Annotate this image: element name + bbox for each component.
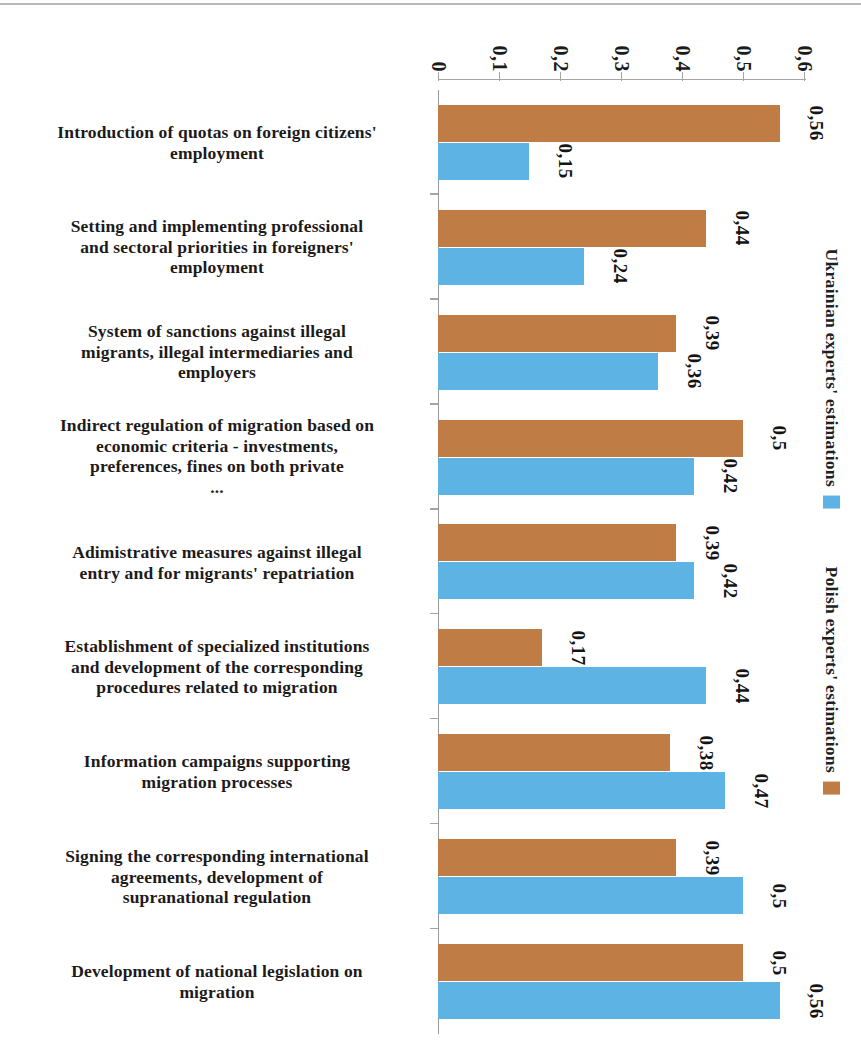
legend-label-polish: Polish experts' estimations bbox=[822, 567, 843, 773]
bar-polish bbox=[438, 839, 676, 876]
value-axis-tick-label: 0,2 bbox=[549, 46, 572, 73]
bar-polish bbox=[438, 210, 706, 247]
bar-value-label: 0,47 bbox=[750, 773, 775, 808]
category-axis-tick bbox=[430, 403, 438, 405]
value-axis-tick bbox=[499, 72, 501, 81]
bar-row: 0,56 bbox=[438, 105, 804, 142]
value-axis-tick-label: 0,3 bbox=[610, 46, 633, 73]
bar-polish bbox=[438, 315, 676, 352]
value-axis-tick bbox=[682, 72, 684, 81]
bar-ukrainian bbox=[438, 563, 694, 600]
value-axis-tick-label: 0,5 bbox=[732, 46, 755, 73]
bar-value-label: 0,44 bbox=[731, 211, 756, 246]
bar-row: 0,36 bbox=[438, 353, 804, 390]
bar-row: 0,5 bbox=[438, 944, 804, 981]
category-axis-labels: Development of national legislation onmi… bbox=[5, 90, 429, 1034]
category-label: Setting and implementing professionaland… bbox=[5, 216, 429, 278]
bar-ukrainian bbox=[438, 353, 658, 390]
bar-polish bbox=[438, 944, 743, 981]
value-axis-tick-labels: 00,10,20,30,40,50,6 bbox=[438, 2, 804, 72]
bar-ukrainian bbox=[438, 248, 584, 285]
bar-ukrainian bbox=[438, 772, 725, 809]
bar-value-label: 0,5 bbox=[768, 950, 793, 975]
rotated-scan-wrapper: Ukrainian experts' estimations Polish ex… bbox=[0, 0, 861, 1048]
category-axis-tick bbox=[430, 718, 438, 720]
category-axis-tick bbox=[430, 193, 438, 195]
legend-entry-ukrainian: Ukrainian experts' estimations bbox=[822, 249, 843, 509]
value-axis-tick-label: 0 bbox=[427, 62, 450, 73]
bar-row: 0,44 bbox=[438, 210, 804, 247]
bar-row: 0,42 bbox=[438, 563, 804, 600]
legend-swatch-polish bbox=[824, 782, 841, 795]
value-axis-tick bbox=[560, 72, 562, 81]
bar-value-label: 0,39 bbox=[701, 316, 726, 351]
category-axis-tick bbox=[430, 823, 438, 825]
category-axis-tick bbox=[430, 508, 438, 510]
value-axis-tick-label: 0,6 bbox=[793, 46, 816, 73]
bar-row: 0,39 bbox=[438, 525, 804, 562]
scan-edge-line bbox=[0, 3, 861, 5]
bar-polish bbox=[438, 105, 780, 142]
bar-row: 0,44 bbox=[438, 667, 804, 704]
chart-legend: Ukrainian experts' estimations Polish ex… bbox=[803, 192, 861, 852]
category-label: System of sanctions against illegalmigra… bbox=[5, 321, 429, 383]
bar-value-label: 0,39 bbox=[701, 840, 726, 875]
bar-value-label: 0,5 bbox=[768, 426, 793, 451]
bar-row: 0,17 bbox=[438, 629, 804, 666]
bar-row: 0,5 bbox=[438, 877, 804, 914]
bar-ukrainian bbox=[438, 667, 706, 704]
bar-row: 0,47 bbox=[438, 772, 804, 809]
value-axis-tick bbox=[743, 72, 745, 81]
bar-value-label: 0,24 bbox=[609, 249, 634, 284]
bar-ukrainian bbox=[438, 877, 743, 914]
bar-value-label: 0,42 bbox=[719, 459, 744, 494]
bar-value-label: 0,38 bbox=[695, 735, 720, 770]
bar-row: 0,39 bbox=[438, 315, 804, 352]
bar-polish bbox=[438, 734, 670, 771]
bar-row: 0,39 bbox=[438, 839, 804, 876]
bar-value-label: 0,44 bbox=[731, 668, 756, 703]
bar-polish bbox=[438, 629, 542, 666]
bar-value-label: 0,5 bbox=[768, 883, 793, 908]
category-label: Adimistrative measures against illegalen… bbox=[5, 541, 429, 582]
bar-value-label: 0,36 bbox=[683, 354, 708, 389]
category-label: Information campaigns supportingmigratio… bbox=[5, 751, 429, 792]
bar-value-label: 0,15 bbox=[555, 144, 580, 179]
category-axis-tick bbox=[430, 613, 438, 615]
bar-value-label: 0,39 bbox=[701, 525, 726, 560]
bar-row: 0,42 bbox=[438, 458, 804, 495]
category-axis-tick bbox=[430, 298, 438, 300]
bar-value-label: 0,17 bbox=[567, 630, 592, 665]
category-label: Signing the corresponding internationala… bbox=[5, 846, 429, 908]
bar-row: 0,24 bbox=[438, 248, 804, 285]
value-axis-tick-label: 0,4 bbox=[671, 46, 694, 73]
category-label: Development of national legislation onmi… bbox=[5, 961, 429, 1002]
bar-polish bbox=[438, 420, 743, 457]
bar-value-label: 0,42 bbox=[719, 563, 744, 598]
grouped-bar-chart: Ukrainian experts' estimations Polish ex… bbox=[0, 0, 861, 1048]
category-label: Establishment of specialized institution… bbox=[5, 636, 429, 698]
value-axis-tick bbox=[804, 72, 806, 81]
bar-ukrainian bbox=[438, 982, 780, 1019]
bar-ukrainian bbox=[438, 458, 694, 495]
legend-entry-polish: Polish experts' estimations bbox=[822, 567, 843, 795]
bar-value-label: 0,56 bbox=[805, 983, 830, 1018]
bar-value-label: 0,56 bbox=[805, 106, 830, 141]
bar-ukrainian bbox=[438, 143, 530, 180]
legend-label-ukrainian: Ukrainian experts' estimations bbox=[822, 249, 843, 487]
category-axis-tick bbox=[430, 928, 438, 930]
bar-row: 0,38 bbox=[438, 734, 804, 771]
bar-row: 0,15 bbox=[438, 143, 804, 180]
bar-row: 0,56 bbox=[438, 982, 804, 1019]
value-axis-tick bbox=[621, 72, 623, 81]
category-label: Indirect regulation of migration based o… bbox=[5, 416, 429, 499]
bar-row: 0,5 bbox=[438, 420, 804, 457]
value-axis-tick-label: 0,1 bbox=[488, 46, 511, 73]
plot-area: 0,560,50,50,390,470,380,440,170,420,390,… bbox=[438, 90, 804, 1034]
legend-swatch-ukrainian bbox=[824, 496, 841, 509]
value-axis-tick bbox=[438, 72, 440, 81]
category-label: Introduction of quotas on foreign citize… bbox=[5, 122, 429, 163]
bar-polish bbox=[438, 525, 676, 562]
